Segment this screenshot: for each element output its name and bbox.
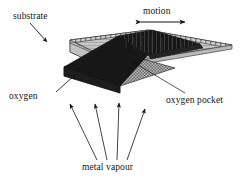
metal-vapour-arrow-2 — [95, 104, 107, 160]
metal-vapour-arrow-1 — [70, 104, 97, 160]
label-oxygen: oxygen — [9, 92, 38, 102]
metal-vapour-arrow-4 — [127, 109, 145, 160]
label-oxygen-pocket: oxygen pocket — [166, 96, 223, 106]
label-substrate: substrate — [13, 12, 48, 22]
substrate-leader — [30, 23, 47, 42]
metal-vapour-arrows — [70, 103, 145, 160]
metal-vapour-arrow-3 — [117, 103, 119, 160]
label-metal-vapour: metal vapour — [82, 163, 133, 173]
label-motion: motion — [143, 7, 171, 17]
